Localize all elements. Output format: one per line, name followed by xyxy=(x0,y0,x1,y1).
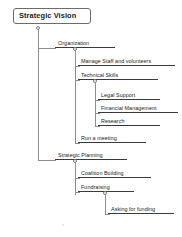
root-node-strategic-vision[interactable]: Strategic Vision xyxy=(13,8,91,24)
node-technical-skills[interactable]: Technical Skills xyxy=(78,69,158,80)
paper-speck xyxy=(62,224,64,226)
node-label-financial-management: Financial Management xyxy=(101,106,157,111)
connector-branch-coalition-building xyxy=(75,178,80,179)
node-label-legal-support: Legal Support xyxy=(101,93,135,98)
connector-branch-technical-skills xyxy=(75,80,80,81)
node-label-coalition-building: Coalition Building xyxy=(81,171,124,176)
connector-branch-asking-for-funding xyxy=(105,214,110,215)
connector-branch-manage-staff xyxy=(75,66,80,67)
connector-trunk-strategic-planning xyxy=(75,163,76,195)
connector-branch-financial-management xyxy=(95,113,100,114)
node-label-run-a-meeting: Run a meeting xyxy=(81,136,117,141)
node-label-fundraising: Fundraising xyxy=(81,185,110,190)
root-node-label: Strategic Vision xyxy=(19,12,76,19)
node-research[interactable]: Research xyxy=(98,115,160,126)
connector-branch-strategic-planning xyxy=(38,160,56,161)
connector-branch-legal-support xyxy=(95,100,100,101)
connector-branch-research xyxy=(95,126,100,127)
connector-trunk-organization xyxy=(75,51,76,143)
node-manage-staff-and-volunteers[interactable]: Manage Staff and volunteers xyxy=(78,55,175,66)
connector-trunk-technical-skills xyxy=(95,83,96,126)
node-label-manage-staff-and-volunteers: Manage Staff and volunteers xyxy=(81,59,151,64)
node-label-asking-for-funding: Asking for funding xyxy=(111,207,155,212)
node-label-technical-skills: Technical Skills xyxy=(81,73,118,78)
node-label-strategic-planning: Strategic Planning xyxy=(58,153,103,158)
node-run-a-meeting[interactable]: Run a meeting xyxy=(78,132,146,143)
connector-trunk-fundraising xyxy=(105,195,106,214)
node-label-organization: Organization xyxy=(58,41,89,46)
connector-branch-run-a-meeting xyxy=(75,143,80,144)
node-organization[interactable]: Organization xyxy=(55,37,115,48)
node-financial-management[interactable]: Financial Management xyxy=(98,102,178,113)
connector-branch-organization xyxy=(38,48,56,49)
connector-branch-fundraising xyxy=(75,192,80,193)
node-strategic-planning[interactable]: Strategic Planning xyxy=(55,149,127,160)
connector-trunk-root xyxy=(38,30,39,160)
node-coalition-building[interactable]: Coalition Building xyxy=(78,167,151,178)
node-legal-support[interactable]: Legal Support xyxy=(98,89,160,100)
node-asking-for-funding[interactable]: Asking for funding xyxy=(108,203,174,214)
diagram-canvas: Strategic Vision Organization Manage Sta… xyxy=(0,0,182,237)
node-label-research: Research xyxy=(101,119,124,124)
